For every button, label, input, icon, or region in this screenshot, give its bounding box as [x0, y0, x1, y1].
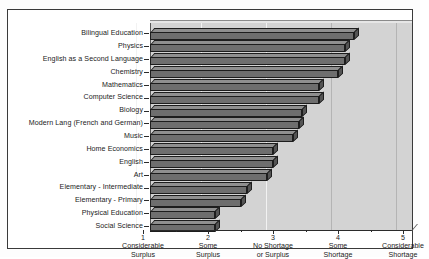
category-label: English [8, 158, 143, 166]
category-tick [144, 149, 149, 150]
category-tick [144, 85, 149, 86]
category-tick [144, 136, 149, 137]
x-tick-minor [241, 230, 242, 232]
bar-front-face [150, 121, 299, 129]
category-label: Elementary - Primary [8, 196, 143, 204]
category-tick [144, 226, 149, 227]
category-label: Social Science [8, 222, 143, 230]
category-tick [144, 46, 149, 47]
category-label: Elementary - Intermediate [8, 183, 143, 191]
category-tick [144, 59, 149, 60]
bar-series [150, 23, 412, 230]
category-label: Computer Science [8, 93, 143, 101]
bar [150, 66, 338, 78]
x-axis-label-line1: Considerable [363, 242, 429, 250]
category-label: Music [8, 132, 143, 140]
bar-front-face [150, 109, 302, 117]
bar [150, 28, 354, 40]
bar-front-face [150, 70, 338, 78]
category-label: Home Economics [8, 145, 143, 153]
bar [150, 117, 299, 129]
bar [150, 169, 267, 181]
category-tick [144, 98, 149, 99]
category-tick [144, 33, 149, 34]
category-tick [144, 123, 149, 124]
bar-front-face [150, 199, 241, 207]
category-label: Biology [8, 106, 143, 114]
category-label: English as a Second Language [8, 55, 143, 63]
category-tick [144, 175, 149, 176]
category-label: Mathematics [8, 81, 143, 89]
x-tick-minor [306, 230, 307, 232]
bar-front-face [150, 57, 345, 65]
bar-side-face [299, 117, 304, 130]
category-label: Chemistry [8, 68, 143, 76]
bar [150, 130, 293, 142]
x-tick-minor [176, 230, 177, 232]
category-label: Bilingual Education [8, 29, 143, 37]
bar [150, 40, 345, 52]
bar-front-face [150, 211, 215, 219]
bar [150, 53, 345, 65]
x-axis-label-number: 5 [363, 234, 429, 242]
bar [150, 182, 247, 194]
bar-front-face [150, 44, 345, 52]
category-tick [144, 162, 149, 163]
bar-front-face [150, 186, 247, 194]
bar-front-face [150, 173, 267, 181]
category-axis-labels: Bilingual EducationPhysicsEnglish as a S… [8, 23, 143, 230]
category-label: Physics [8, 42, 143, 50]
category-label: Modern Lang (French and German) [8, 119, 143, 127]
category-tick [144, 111, 149, 112]
bar [150, 156, 273, 168]
bar-front-face [150, 147, 273, 155]
x-axis-label-line2: Shortage [363, 251, 429, 259]
x-axis-label: 5ConsiderableShortage [363, 234, 429, 259]
category-tick [144, 213, 149, 214]
category-label: Art [8, 171, 143, 179]
bar [150, 207, 215, 219]
x-axis-line [150, 230, 412, 231]
bar-front-face [150, 224, 215, 232]
category-tick [144, 188, 149, 189]
bar [150, 79, 319, 91]
x-tick-minor [371, 230, 372, 232]
bar [150, 195, 241, 207]
bar [150, 143, 273, 155]
category-tick [144, 200, 149, 201]
bar-front-face [150, 32, 354, 40]
category-label: Physical Education [8, 209, 143, 217]
bar [150, 105, 302, 117]
bar-front-face [150, 134, 293, 142]
bar-front-face [150, 96, 319, 104]
bar-side-face [273, 143, 278, 156]
bar-front-face [150, 83, 319, 91]
category-tick [144, 72, 149, 73]
bar [150, 92, 319, 104]
chart-outer-frame: Bilingual EducationPhysicsEnglish as a S… [7, 9, 413, 249]
bar-front-face [150, 160, 273, 168]
